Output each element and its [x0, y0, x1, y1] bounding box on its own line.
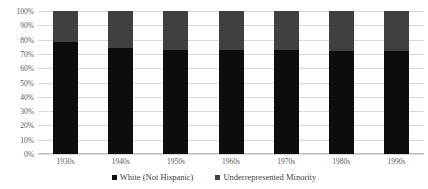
- bar-segment-underrepresented-minority[interactable]: [384, 11, 409, 51]
- bar-segment-underrepresented-minority[interactable]: [108, 11, 133, 48]
- chart-title: [0, 0, 428, 2]
- y-axis-tick-label: 10%: [0, 136, 34, 143]
- y-axis-tick-label: 40%: [0, 93, 34, 100]
- x-axis-tick-label: 1940s: [91, 157, 151, 167]
- bar-group[interactable]: [329, 11, 354, 154]
- y-axis-tick-label: 90%: [0, 22, 34, 29]
- bar-group[interactable]: [163, 11, 188, 154]
- bar-segment-white-not-hispanic[interactable]: [274, 50, 299, 154]
- y-axis-tick-label: 20%: [0, 122, 34, 129]
- y-axis-tick-label: 60%: [0, 65, 34, 72]
- bar-segment-underrepresented-minority[interactable]: [274, 11, 299, 50]
- bar-group[interactable]: [274, 11, 299, 154]
- y-axis-labels: 100%90%80%70%60%50%40%30%20%10%0%: [0, 11, 34, 154]
- bar-segment-underrepresented-minority[interactable]: [163, 11, 188, 50]
- x-axis-tick-label: 1950s: [146, 157, 206, 167]
- legend-item-label: White (Not Hispanic): [120, 172, 194, 182]
- x-axis-tick-label: 1990s: [366, 157, 426, 167]
- bar-segment-white-not-hispanic[interactable]: [108, 48, 133, 154]
- legend-item[interactable]: White (Not Hispanic): [112, 172, 194, 182]
- y-axis-tick-label: 100%: [0, 8, 34, 15]
- x-axis-tick-label: 1970s: [256, 157, 316, 167]
- x-axis-tick-label: 1960s: [201, 157, 261, 167]
- y-axis-tick-label: 0%: [0, 151, 34, 158]
- plot-area: [38, 11, 424, 154]
- legend-item[interactable]: Underrepresented Minority: [215, 172, 316, 182]
- x-axis-tick-label: 1930s: [36, 157, 96, 167]
- square-marker-icon: [112, 175, 117, 180]
- x-axis-labels: 1930s1940s1950s1960s1970s1980s1990s: [38, 157, 424, 169]
- grid-line: [38, 154, 424, 155]
- bar-group[interactable]: [108, 11, 133, 154]
- square-marker-icon: [215, 175, 220, 180]
- y-axis-tick-label: 80%: [0, 36, 34, 43]
- bar-segment-white-not-hispanic[interactable]: [53, 42, 78, 154]
- bar-segment-white-not-hispanic[interactable]: [219, 50, 244, 154]
- bar-group[interactable]: [53, 11, 78, 154]
- bar-segment-underrepresented-minority[interactable]: [329, 11, 354, 51]
- bar-segment-white-not-hispanic[interactable]: [384, 51, 409, 154]
- chart-legend: White (Not Hispanic)Underrepresented Min…: [0, 172, 428, 182]
- y-axis-tick-label: 30%: [0, 108, 34, 115]
- y-axis-tick-label: 50%: [0, 79, 34, 86]
- bar-group[interactable]: [219, 11, 244, 154]
- y-axis-tick-label: 70%: [0, 50, 34, 57]
- legend-item-label: Underrepresented Minority: [223, 172, 316, 182]
- bar-group[interactable]: [384, 11, 409, 154]
- stacked-bar-chart: 100%90%80%70%60%50%40%30%20%10%0% 1930s1…: [0, 0, 428, 189]
- x-axis-tick-label: 1980s: [311, 157, 371, 167]
- bar-segment-white-not-hispanic[interactable]: [329, 51, 354, 154]
- bar-segment-white-not-hispanic[interactable]: [163, 50, 188, 154]
- bar-segment-underrepresented-minority[interactable]: [53, 11, 78, 42]
- bar-segment-underrepresented-minority[interactable]: [219, 11, 244, 50]
